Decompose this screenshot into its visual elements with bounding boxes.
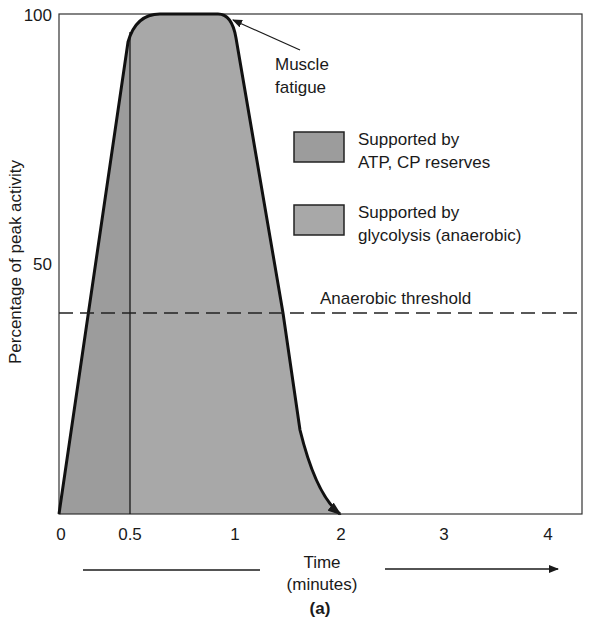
x-axis-label-line1: Time bbox=[303, 553, 340, 572]
legend-label-glycolysis-line1: Supported by bbox=[358, 203, 460, 222]
y-tick-100: 100 bbox=[24, 6, 52, 25]
muscle-fatigue-arrow bbox=[233, 20, 300, 50]
y-axis-label: Percentage of peak activity bbox=[6, 159, 25, 364]
x-axis-label-line2: (minutes) bbox=[287, 575, 358, 594]
legend-label-atp-cp-line2: ATP, CP reserves bbox=[358, 153, 490, 172]
y-tick-50: 50 bbox=[33, 255, 52, 274]
x-tick-4: 4 bbox=[543, 525, 552, 544]
muscle-fatigue-label-line2: fatigue bbox=[275, 78, 326, 97]
legend-swatch-atp-cp bbox=[294, 132, 344, 162]
legend-label-atp-cp-line1: Supported by bbox=[358, 130, 460, 149]
anaerobic-threshold-label: Anaerobic threshold bbox=[320, 289, 471, 308]
muscle-fatigue-label-line1: Muscle bbox=[275, 55, 329, 74]
x-tick-3: 3 bbox=[439, 525, 448, 544]
chart: Anaerobic threshold Muscle fatigue Suppo… bbox=[0, 0, 596, 627]
x-tick-0.5: 0.5 bbox=[118, 525, 142, 544]
x-tick-0: 0 bbox=[56, 525, 65, 544]
legend-label-glycolysis-line2: glycolysis (anaerobic) bbox=[358, 226, 521, 245]
legend-swatch-glycolysis bbox=[294, 205, 344, 235]
legend: Supported by ATP, CP reserves Supported … bbox=[294, 130, 521, 245]
x-tick-2: 2 bbox=[336, 525, 345, 544]
figure-caption: (a) bbox=[310, 599, 331, 618]
x-tick-1: 1 bbox=[230, 525, 239, 544]
